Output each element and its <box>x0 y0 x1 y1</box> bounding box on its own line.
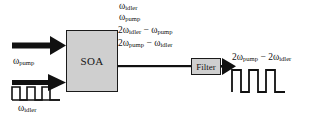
diagram-canvas: SOA Filter ωpump ωidler ωidler ωpump 2ωi… <box>0 0 315 120</box>
idler-subscript: idler <box>24 106 36 113</box>
pump-input-label: ωpump <box>13 56 34 68</box>
soa-block-label: SOA <box>80 55 103 67</box>
output-operator: − 2ω <box>258 52 279 62</box>
idler-input-pulse-train <box>12 87 60 100</box>
component-3-term-a: 2ω <box>118 25 129 35</box>
filter-block[interactable]: Filter <box>191 58 221 75</box>
component-3-operator: − ω <box>141 25 157 35</box>
component-4-term-a: 2ω <box>118 38 129 48</box>
output-term-b-subscript: idler <box>279 55 291 62</box>
component-3-term-b-subscript: pump <box>157 28 172 35</box>
output-term-a: 2ω <box>232 52 243 62</box>
pump-input-arrow <box>12 36 66 55</box>
component-4-term-b-subscript: idler <box>160 41 172 48</box>
component-4-term-a-subscript: pump <box>129 41 144 48</box>
filter-block-label: Filter <box>196 62 216 72</box>
pump-subscript: pump <box>19 59 34 66</box>
component-1-subscript: idler <box>125 4 137 11</box>
component-4-operator: − ω <box>144 38 160 48</box>
soa-output-component-4: 2ωpump − ωidler <box>118 38 173 50</box>
soa-output-component-2: ωpump <box>119 12 140 24</box>
soa-block[interactable]: SOA <box>66 30 118 92</box>
soa-filter-connector <box>118 65 191 67</box>
output-pulse-train <box>232 70 285 92</box>
idler-input-label: ωidler <box>18 103 36 115</box>
output-term-a-subscript: pump <box>243 55 258 62</box>
component-2-subscript: pump <box>125 15 140 22</box>
component-3-term-a-subscript: idler <box>129 28 141 35</box>
soa-output-component-3: 2ωidler − ωpump <box>118 25 173 37</box>
output-signal-label: 2ωpump − 2ωidler <box>232 52 291 64</box>
